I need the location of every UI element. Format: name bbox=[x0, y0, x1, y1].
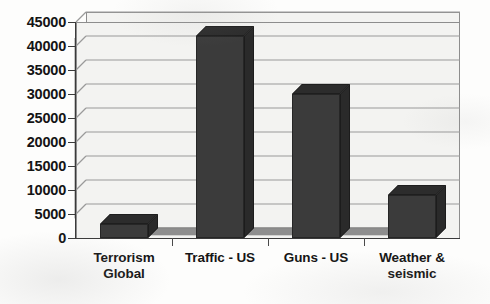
bar-front-face bbox=[388, 195, 436, 238]
x-axis-category-label: Traffic - US bbox=[172, 250, 268, 266]
y-axis-tick-label: 35000 bbox=[27, 63, 66, 78]
x-axis-category-label-line: Weather & bbox=[364, 250, 460, 266]
y-axis-tick bbox=[68, 22, 76, 23]
bar-4 bbox=[388, 185, 436, 238]
bar-1 bbox=[100, 214, 148, 238]
y-axis-tick bbox=[68, 118, 76, 119]
bar-front-face bbox=[292, 94, 340, 238]
y-axis-line bbox=[75, 22, 76, 238]
y-axis-tick bbox=[68, 70, 76, 71]
bar-front-face bbox=[100, 224, 148, 238]
y-axis-tick-label: 0 bbox=[58, 231, 66, 246]
y-axis-tick-label: 40000 bbox=[27, 39, 66, 54]
y-axis-tick-label: 15000 bbox=[27, 159, 66, 174]
x-axis-category-label-line: Terrorism bbox=[76, 250, 172, 266]
y-axis-tick-label: 25000 bbox=[27, 111, 66, 126]
x-axis-category-label-line: Traffic - US bbox=[172, 250, 268, 266]
bar-side-face bbox=[244, 26, 254, 238]
y-axis-tick bbox=[68, 238, 76, 239]
x-axis-category-label: Guns - US bbox=[268, 250, 364, 266]
y-axis-tick bbox=[68, 190, 76, 191]
y-axis-tick-label: 20000 bbox=[27, 135, 66, 150]
bar-2 bbox=[196, 26, 244, 238]
y-axis-tick bbox=[68, 214, 76, 215]
x-axis-tick bbox=[268, 238, 269, 246]
x-axis-category-label: Weather &seismic bbox=[364, 250, 460, 282]
y-axis-tick-label: 30000 bbox=[27, 87, 66, 102]
y-axis-tick bbox=[68, 166, 76, 167]
x-axis-category-label-line: Guns - US bbox=[268, 250, 364, 266]
x-axis-tick bbox=[172, 238, 173, 246]
bar-side-face bbox=[340, 84, 350, 238]
x-axis-tick bbox=[364, 238, 365, 246]
y-axis-tick bbox=[68, 94, 76, 95]
y-axis-tick bbox=[68, 46, 76, 47]
bar-3 bbox=[292, 84, 340, 238]
y-axis-tick-label: 5000 bbox=[35, 207, 66, 222]
y-axis-tick-label: 10000 bbox=[27, 183, 66, 198]
y-axis-tick-label: 45000 bbox=[27, 15, 66, 30]
x-axis-category-label: TerrorismGlobal bbox=[76, 250, 172, 282]
y-axis-tick bbox=[68, 142, 76, 143]
x-axis-category-label-line: Global bbox=[76, 266, 172, 282]
x-axis-category-label-line: seismic bbox=[364, 266, 460, 282]
bar-front-face bbox=[196, 36, 244, 238]
bar-chart: 4500040000350003000025000200001500010000… bbox=[0, 0, 490, 304]
